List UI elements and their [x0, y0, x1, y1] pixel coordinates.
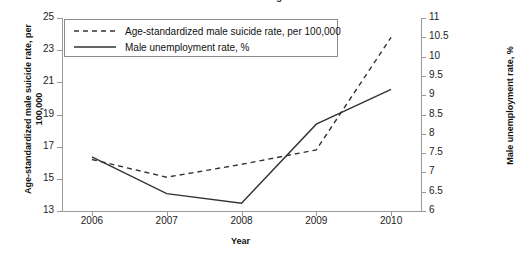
- series-line-unemployment-rate: [92, 89, 391, 203]
- legend-swatch-dashed-icon: [73, 26, 117, 36]
- legend-item-unemployment-rate: Male unemployment rate, %: [73, 39, 250, 55]
- chart-legend: Age-standardized male suicide rate, per …: [64, 19, 338, 57]
- series-line-suicide-rate: [92, 37, 391, 177]
- legend-swatch-solid-icon: [73, 42, 117, 52]
- chart-figure: Men's Program Age-standardized male suic…: [0, 0, 529, 255]
- legend-item-suicide-rate: Age-standardized male suicide rate, per …: [73, 23, 341, 39]
- legend-label-unemployment-rate: Male unemployment rate, %: [125, 42, 250, 53]
- legend-label-suicide-rate: Age-standardized male suicide rate, per …: [125, 26, 341, 37]
